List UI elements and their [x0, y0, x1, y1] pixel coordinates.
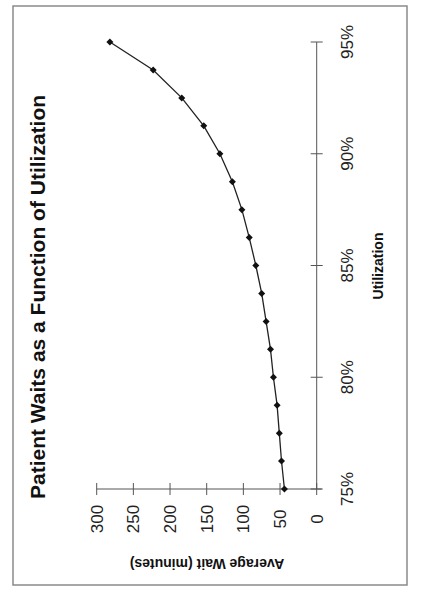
chart: Patient Waits as a Function of Utilizati…: [0, 0, 425, 599]
data-point-marker: [281, 486, 288, 493]
data-point-marker: [252, 262, 259, 269]
y-tick-label: 100: [234, 505, 253, 533]
plot-area: 75%80%85%90%95% 050100150200250300: [88, 25, 357, 533]
y-tick-label: 50: [271, 510, 290, 529]
data-point-marker: [106, 39, 113, 46]
x-axis-ticks: 75%80%85%90%95%: [311, 25, 357, 506]
x-tick-label: 80%: [338, 360, 357, 394]
x-tick-label: 90%: [338, 137, 357, 171]
data-point-marker: [267, 346, 274, 353]
y-tick-label: 200: [161, 505, 180, 533]
x-tick-label: 75%: [338, 472, 357, 506]
data-point-marker: [278, 458, 285, 465]
chart-title: Patient Waits as a Function of Utilizati…: [26, 95, 49, 499]
data-point-marker: [246, 234, 253, 241]
x-tick-label: 85%: [338, 248, 357, 282]
y-tick-label: 0: [308, 514, 327, 523]
data-point-marker: [238, 206, 245, 213]
x-axis-title: Utilization: [370, 233, 386, 300]
y-tick-label: 250: [124, 505, 143, 533]
x-tick-label: 95%: [338, 25, 357, 59]
data-point-marker: [258, 290, 265, 297]
y-tick-label: 150: [198, 505, 217, 533]
y-tick-label: 300: [88, 505, 107, 533]
data-point-marker: [216, 150, 223, 157]
y-axis-ticks: 050100150200250300: [88, 483, 327, 533]
data-point-marker: [274, 402, 281, 409]
data-point-marker: [276, 430, 283, 437]
y-axis-title: Average Wait (minutes): [130, 556, 285, 572]
data-point-marker: [263, 318, 270, 325]
data-point-marker: [229, 178, 236, 185]
series-markers: [106, 39, 288, 493]
data-point-marker: [270, 374, 277, 381]
